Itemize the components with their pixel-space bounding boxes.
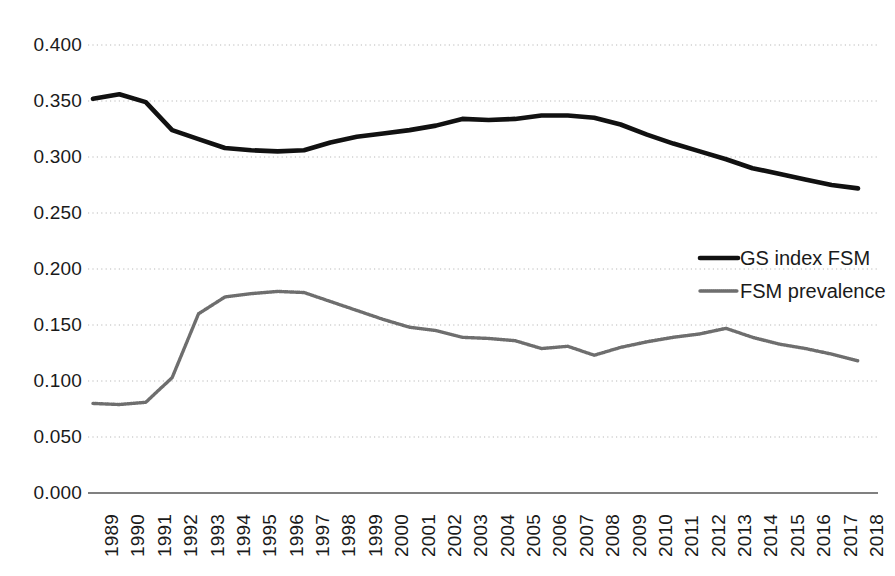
x-tick-label: 2012: [709, 514, 728, 557]
x-tick-label: 2009: [630, 514, 649, 557]
x-tick-label: 2007: [577, 514, 596, 557]
x-tick-label: 2018: [867, 514, 886, 557]
x-tick-label: 2001: [419, 514, 438, 557]
x-tick-label: 2013: [735, 514, 754, 557]
x-tick-label: 1998: [339, 514, 358, 557]
legend-label-gs-index-fsm: GS index FSM: [740, 248, 870, 268]
chart-container: 0.4000.3500.3000.2500.2000.1500.1000.050…: [0, 0, 895, 576]
x-tick-label: 1993: [208, 514, 227, 557]
x-tick-label: 1999: [366, 514, 385, 557]
x-tick-label: 2014: [761, 514, 780, 557]
x-tick-label: 2017: [841, 514, 860, 557]
x-tick-label: 1997: [313, 514, 332, 557]
x-tick-label: 2000: [392, 514, 411, 557]
x-tick-label: 2006: [550, 514, 569, 557]
x-tick-label: 1989: [102, 514, 121, 557]
x-tick-label: 1994: [234, 514, 253, 557]
x-tick-label: 1992: [181, 514, 200, 557]
x-tick-label: 2002: [445, 514, 464, 557]
x-tick-label: 1996: [287, 514, 306, 557]
x-tick-label: 2008: [603, 514, 622, 557]
x-tick-label: 2005: [524, 514, 543, 557]
legend-label-fsm-prevalence: FSM prevalence: [740, 281, 886, 301]
x-tick-label: 1995: [260, 514, 279, 557]
x-tick-label: 2011: [682, 515, 701, 557]
x-tick-label: 1990: [128, 514, 147, 557]
x-tick-label: 2016: [814, 514, 833, 557]
x-tick-label: 2015: [788, 514, 807, 557]
x-tick-label: 2010: [656, 514, 675, 557]
x-tick-label: 2004: [498, 514, 517, 557]
x-tick-label: 1991: [155, 514, 174, 557]
x-tick-label: 2003: [471, 514, 490, 557]
